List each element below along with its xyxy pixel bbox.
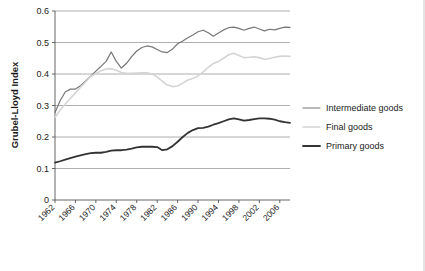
axes-group	[52, 11, 290, 203]
x-tick-label: 1974	[97, 202, 118, 223]
legend: Intermediate goodsFinal goodsPrimary goo…	[303, 103, 404, 151]
x-tick-label: 1970	[77, 202, 98, 223]
legend-item-label: Final goods	[326, 122, 373, 132]
grubel-lloyd-index-line-chart: 00.10.20.30.40.50.6 19621966197019741978…	[0, 0, 425, 271]
x-tick-label: 1966	[56, 202, 77, 223]
series-line	[55, 27, 290, 112]
y-axis-title: Grubel-Lloyd Index	[9, 61, 20, 148]
chart-canvas: 00.10.20.30.40.50.6 19621966197019741978…	[0, 0, 425, 271]
x-tick-label: 2002	[240, 202, 261, 223]
x-tick-label: 1978	[118, 202, 139, 223]
gridlines-group	[55, 11, 290, 169]
y-tick-label: 0.1	[36, 164, 49, 174]
x-tick-label: 1998	[220, 202, 241, 223]
y-tick-label: 0.4	[36, 69, 49, 79]
y-tick-label: 0.2	[36, 132, 49, 142]
ytick-labels-group: 00.10.20.30.40.50.6	[36, 6, 49, 205]
x-tick-label: 1962	[36, 202, 57, 223]
legend-item-label: Intermediate goods	[326, 103, 404, 113]
x-tick-label: 2006	[261, 202, 282, 223]
y-tick-label: 0.5	[36, 38, 49, 48]
xtick-labels-group: 1962196619701974197819821986199019941998…	[36, 202, 281, 223]
series-line	[55, 53, 290, 117]
y-axis-title-group: Grubel-Lloyd Index	[9, 61, 20, 148]
x-tick-label: 1982	[138, 202, 159, 223]
legend-item-label: Primary goods	[326, 141, 385, 151]
series-group	[55, 27, 290, 162]
y-tick-label: 0.6	[36, 6, 49, 16]
x-tick-label: 1990	[179, 202, 200, 223]
y-tick-label: 0.3	[36, 101, 49, 111]
series-line	[55, 118, 290, 162]
x-tick-label: 1994	[199, 202, 220, 223]
x-tick-label: 1986	[159, 202, 180, 223]
